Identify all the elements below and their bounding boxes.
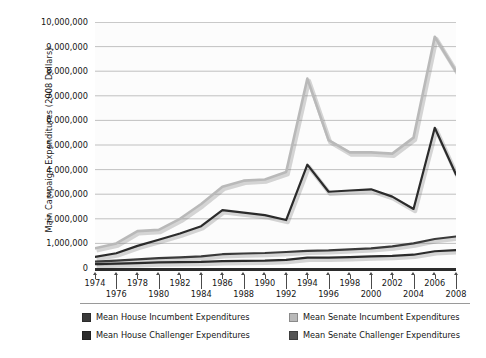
x-axis-tick-mark: [159, 275, 160, 289]
x-axis-tick-label: 1996: [312, 290, 346, 298]
x-axis-tick-mark: [329, 275, 330, 289]
x-axis-tick-label: 2000: [354, 290, 388, 298]
chart-figure: Main Campaign Expenditures (2008 Dollars…: [0, 0, 486, 358]
x-axis-tick-mark: [456, 275, 457, 289]
x-axis-tick-label: 2008: [439, 290, 473, 298]
x-axis-tick-label: 2002: [375, 279, 409, 287]
legend-swatch-icon: [289, 331, 298, 340]
legend-swatch-icon: [82, 313, 91, 322]
x-axis-tick-label: 1984: [184, 290, 218, 298]
x-axis-tick-label: 1986: [205, 279, 239, 287]
x-axis-tick-label: 2004: [397, 290, 431, 298]
x-axis-tick-labels: 1974197619781980198219841986198819901992…: [0, 0, 486, 358]
x-axis-tick-label: 1974: [78, 279, 112, 287]
x-axis-tick-label: 1992: [269, 290, 303, 298]
x-axis-tick-label: 1994: [290, 279, 324, 287]
x-axis-tick-mark: [201, 275, 202, 289]
x-axis-tick-label: 1976: [99, 290, 133, 298]
x-axis-tick-label: 1988: [227, 290, 261, 298]
legend-item[interactable]: Mean House Challenger Expenditures: [82, 330, 250, 340]
legend-item-label: Mean Senate Incumbent Expenditures: [303, 312, 460, 322]
legend-swatch-icon: [82, 331, 91, 340]
x-axis-tick-label: 1980: [142, 290, 176, 298]
x-axis-tick-label: 1998: [333, 279, 367, 287]
legend-item-label: Mean House Incumbent Expenditures: [96, 312, 249, 322]
legend-divider: [80, 303, 470, 304]
x-axis-tick-mark: [286, 275, 287, 289]
x-axis-tick-label: 1978: [120, 279, 154, 287]
x-axis-tick-label: 2006: [418, 279, 452, 287]
x-axis-tick-mark: [414, 275, 415, 289]
x-axis-tick-mark: [371, 275, 372, 289]
x-axis-tick-label: 1990: [248, 279, 282, 287]
legend-item[interactable]: Mean Senate Incumbent Expenditures: [289, 312, 460, 322]
legend-item-label: Mean House Challenger Expenditures: [96, 330, 250, 340]
legend-item[interactable]: Mean House Incumbent Expenditures: [82, 312, 249, 322]
x-axis-tick-mark: [244, 275, 245, 289]
legend-swatch-icon: [289, 313, 298, 322]
legend-item[interactable]: Mean Senate Challenger Expenditures: [289, 330, 460, 340]
legend-item-label: Mean Senate Challenger Expenditures: [303, 330, 460, 340]
x-axis-tick-mark: [116, 275, 117, 289]
x-axis-tick-label: 1982: [163, 279, 197, 287]
